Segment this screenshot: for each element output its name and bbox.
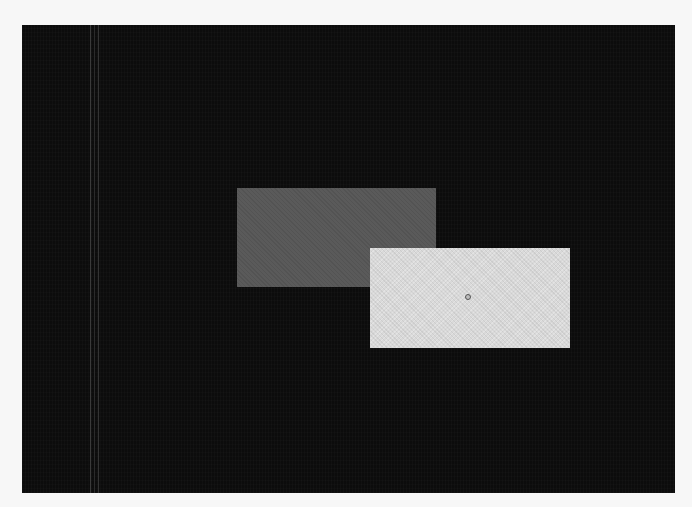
vertical-guide-line xyxy=(90,25,91,493)
light-rectangle-shape[interactable] xyxy=(370,248,570,348)
vertical-guide-line xyxy=(94,25,95,493)
drawing-canvas[interactable] xyxy=(22,25,675,493)
circle-handle-icon[interactable] xyxy=(465,294,471,300)
vertical-guide-line xyxy=(98,25,99,493)
